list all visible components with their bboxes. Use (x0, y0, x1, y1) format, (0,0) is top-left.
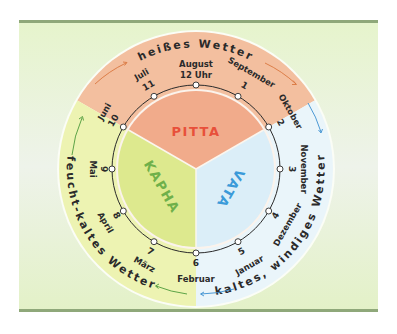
clock-number-6: 6 (193, 258, 199, 268)
clock-dot-10 (120, 124, 126, 130)
clock-dot-7 (151, 239, 157, 245)
clock-dot-2 (266, 124, 272, 130)
month-label-august: August (179, 59, 213, 69)
clock-dot-5 (235, 239, 241, 245)
pitta-label: PITTA (172, 124, 221, 139)
month-label-november: November (299, 144, 309, 194)
dosha-clock-diagram: PITTA KAPHA VATA August 12 Uhr 1 Septemb… (0, 0, 397, 334)
month-label-februar: Februar (177, 274, 215, 284)
time-label-12: 12 Uhr (180, 70, 213, 80)
clock-dot-11 (151, 93, 157, 99)
clock-number-9: 9 (99, 166, 109, 172)
clock-dot-3 (277, 166, 283, 172)
clock-number-3: 3 (287, 166, 297, 172)
clock-dot-12 (193, 82, 199, 88)
clock-dot-6 (193, 250, 199, 256)
top-frame-bar (19, 20, 378, 23)
month-label-mai: Mai (88, 160, 98, 177)
clock-dot-1 (235, 93, 241, 99)
inner-disc (118, 91, 274, 247)
bottom-frame-bar (19, 309, 378, 312)
